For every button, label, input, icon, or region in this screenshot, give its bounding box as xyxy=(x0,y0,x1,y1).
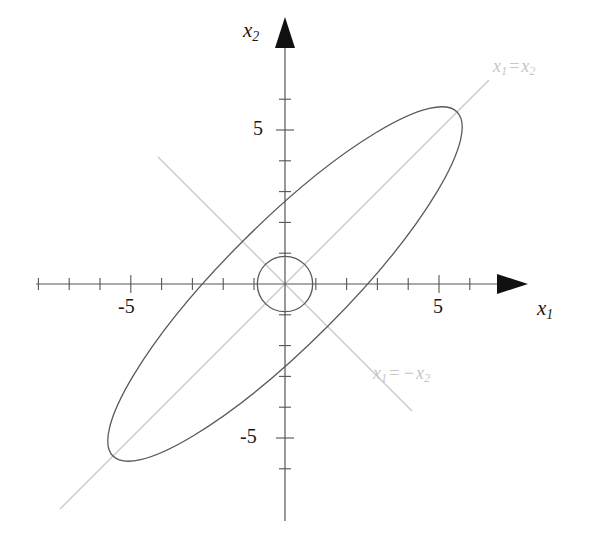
label-x1-equals-minus-x2-rhs: x xyxy=(416,363,424,383)
eigenvector-ellipse-figure: x1 x2 -5 5 5 -5 x1=x2 x1= −x2 xyxy=(0,0,593,553)
y-axis-label-subscript: 2 xyxy=(252,29,259,44)
label-x1-equals-minus-x2-lhs: x xyxy=(373,363,381,383)
y-axis-label: x2 xyxy=(243,20,259,44)
label-x1-equals-x2-lhs: x xyxy=(493,56,501,76)
label-x1-equals-minus-x2-operator: = − xyxy=(387,363,416,383)
x-axis-label: x1 xyxy=(537,298,553,322)
y-tick-label-5: 5 xyxy=(253,118,263,138)
x-axis-label-base: x xyxy=(537,296,546,320)
y-axis-label-base: x xyxy=(243,18,252,42)
x-axis-arrowhead xyxy=(497,274,528,294)
x-tick-label-minus-5: -5 xyxy=(118,296,135,316)
label-x1-equals-minus-x2-rhs-sub: 2 xyxy=(424,371,430,385)
label-x1-equals-minus-x2: x1= −x2 xyxy=(373,364,430,385)
label-x1-equals-x2: x1=x2 xyxy=(493,57,535,78)
y-tick-label-minus-5: -5 xyxy=(240,426,257,446)
x-tick-label-5: 5 xyxy=(433,296,443,316)
y-axis-arrowhead xyxy=(275,17,295,48)
plot-canvas xyxy=(0,0,593,553)
x-axis-label-subscript: 1 xyxy=(546,307,553,322)
label-x1-equals-x2-rhs-sub: 2 xyxy=(529,64,535,78)
label-x1-equals-x2-operator: = xyxy=(507,56,521,76)
